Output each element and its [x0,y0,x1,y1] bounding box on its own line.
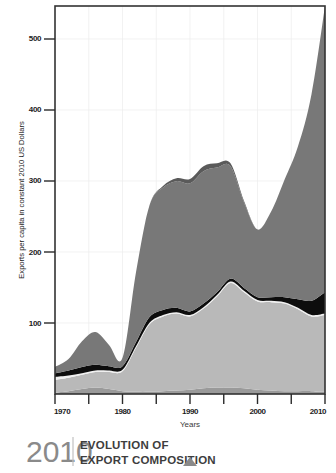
x-tick-label: 2010 [310,407,327,416]
x-tick-label: 1990 [182,407,199,416]
y-tick-label: 400 [29,105,42,114]
x-tick-label: 2000 [249,407,266,416]
y-axis-title: Exports per capita in constant 2010 US D… [17,121,26,279]
x-tick-label: 1980 [114,407,131,416]
y-tick-label: 300 [29,176,42,185]
x-axis-title: Years [180,420,200,429]
y-tick-label: 100 [29,319,42,328]
y-tick-label: 500 [29,34,42,43]
x-tick-label: 1970 [54,407,71,416]
y-tick-label: 200 [29,248,42,257]
export-composition-chart: 100200300400500 19701980199020002010 Exp… [0,0,336,473]
footer-title-line1: EVOLUTION OF [80,439,169,451]
